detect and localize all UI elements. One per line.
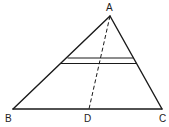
label-d: D [84, 113, 91, 124]
label-c: C [159, 113, 166, 124]
side-ab [13, 16, 110, 109]
label-a: A [106, 2, 113, 13]
segment-ad [89, 16, 110, 109]
triangle-diagram: A B D C [0, 0, 169, 127]
side-ac [110, 16, 162, 109]
label-b: B [5, 113, 12, 124]
